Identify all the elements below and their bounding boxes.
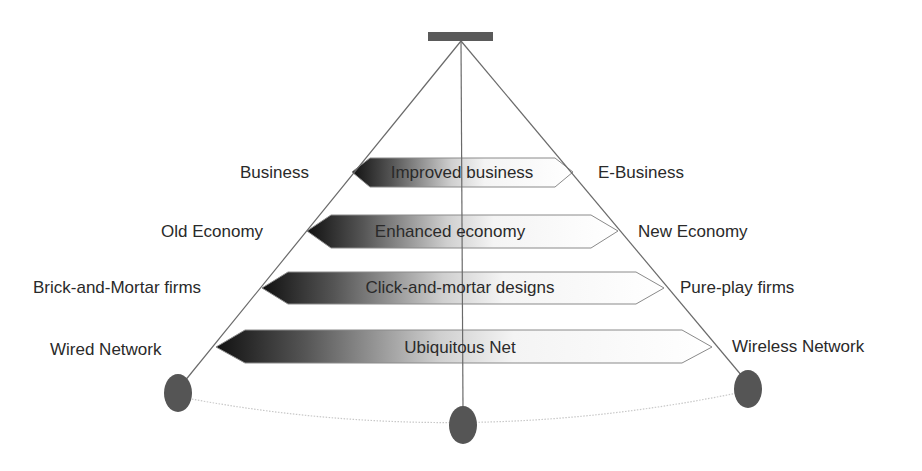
label-brick-and-mortar: Brick-and-Mortar firms xyxy=(33,278,201,298)
top-bar xyxy=(428,32,493,41)
label-business: Business xyxy=(240,163,309,183)
label-old-economy: Old Economy xyxy=(161,222,263,242)
label-wireless-network: Wireless Network xyxy=(732,337,864,357)
left-node xyxy=(164,374,192,412)
label-new-economy: New Economy xyxy=(638,222,748,242)
arrow-label-improved-business: Improved business xyxy=(372,163,552,183)
arrow-label-ubiquitous-net: Ubiquitous Net xyxy=(350,338,570,358)
right-node xyxy=(734,370,762,408)
label-wired-network: Wired Network xyxy=(50,340,161,360)
arrow-label-click-and-mortar: Click-and-mortar designs xyxy=(330,278,590,298)
right-edge-line xyxy=(461,41,742,376)
arrow-label-enhanced-economy: Enhanced economy xyxy=(340,222,560,242)
label-e-business: E-Business xyxy=(598,163,684,183)
center-node xyxy=(449,406,477,444)
label-pure-play: Pure-play firms xyxy=(680,278,794,298)
